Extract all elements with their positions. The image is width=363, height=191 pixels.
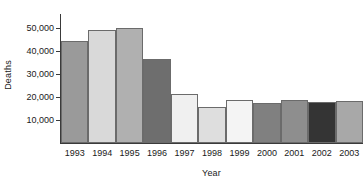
x-axis-tick-label: 2000 xyxy=(253,147,280,159)
x-axis-tick-label: 2003 xyxy=(336,147,363,159)
x-axis-tick-label: 1997 xyxy=(171,147,198,159)
bar xyxy=(171,94,198,143)
bar xyxy=(143,59,170,143)
y-axis-tick: 30,000 xyxy=(5,69,61,80)
x-axis-tick-label: 1995 xyxy=(116,147,143,159)
y-axis-tick-label: 10,000 xyxy=(26,115,54,126)
bar xyxy=(116,28,143,143)
bar xyxy=(61,41,88,143)
bar-chart: Deaths 10,00020,00030,00040,00050,000 19… xyxy=(0,0,363,191)
x-axis-tick-label: 1996 xyxy=(143,147,170,159)
x-axis-tick-label: 2002 xyxy=(308,147,335,159)
x-axis-tick-label: 1999 xyxy=(226,147,253,159)
x-axis-tick-label: 1994 xyxy=(88,147,115,159)
y-axis-tick: 10,000 xyxy=(5,115,61,126)
bar xyxy=(226,100,253,143)
y-axis-tick: 50,000 xyxy=(5,23,61,34)
y-axis-ticks: 10,00020,00030,00040,00050,000 xyxy=(0,0,61,191)
x-axis-title-label: Year xyxy=(202,168,221,178)
y-axis-tick-label: 40,000 xyxy=(26,46,54,57)
x-axis-title: Year xyxy=(60,168,363,178)
bar xyxy=(308,102,335,143)
bar xyxy=(253,103,280,143)
x-axis-tick-label: 2001 xyxy=(281,147,308,159)
bar xyxy=(88,30,115,143)
x-axis-line xyxy=(60,143,363,144)
bars-container xyxy=(61,14,363,143)
y-axis-tick: 40,000 xyxy=(5,46,61,57)
y-axis-tick-label: 30,000 xyxy=(26,69,54,80)
x-axis-tick-label: 1998 xyxy=(198,147,225,159)
bar xyxy=(198,107,225,143)
bar xyxy=(281,100,308,143)
y-axis-tick-label: 50,000 xyxy=(26,23,54,34)
x-axis-tick-label: 1993 xyxy=(61,147,88,159)
bar xyxy=(336,101,363,143)
x-axis-tick-labels: 1993199419951996199719981999200020012002… xyxy=(61,147,363,161)
y-axis-tick: 20,000 xyxy=(5,92,61,103)
y-axis-tick-label: 20,000 xyxy=(26,92,54,103)
